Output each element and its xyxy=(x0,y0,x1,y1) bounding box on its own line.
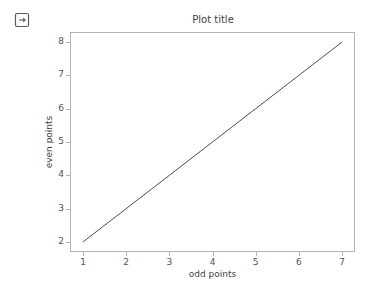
y-tick-label: 8 xyxy=(50,36,64,46)
x-tick-mark xyxy=(169,252,170,256)
y-tick-mark xyxy=(66,75,70,76)
plot-line-layer xyxy=(70,32,355,252)
y-axis-label: even points xyxy=(44,97,54,187)
chart-figure: Plot title 1234567 2345678 odd points ev… xyxy=(0,0,369,291)
y-tick-label: 2 xyxy=(50,236,64,246)
x-tick-mark xyxy=(126,252,127,256)
y-tick-mark xyxy=(66,42,70,43)
y-tick-label: 3 xyxy=(50,203,64,213)
x-axis-label: odd points xyxy=(70,269,355,279)
x-tick-label: 7 xyxy=(327,257,357,267)
x-tick-label: 5 xyxy=(241,257,271,267)
x-tick-mark xyxy=(83,252,84,256)
data-series-line xyxy=(83,42,342,242)
y-tick-mark xyxy=(66,242,70,243)
x-tick-mark xyxy=(256,252,257,256)
y-tick-mark xyxy=(66,175,70,176)
x-tick-mark xyxy=(342,252,343,256)
y-tick-mark xyxy=(66,209,70,210)
x-tick-mark xyxy=(299,252,300,256)
x-tick-label: 4 xyxy=(198,257,228,267)
y-tick-mark xyxy=(66,109,70,110)
x-tick-label: 2 xyxy=(111,257,141,267)
chart-title: Plot title xyxy=(70,14,356,25)
x-tick-label: 1 xyxy=(68,257,98,267)
y-tick-label: 7 xyxy=(50,69,64,79)
y-tick-mark xyxy=(66,142,70,143)
x-tick-label: 6 xyxy=(284,257,314,267)
x-tick-label: 3 xyxy=(154,257,184,267)
x-tick-mark xyxy=(213,252,214,256)
